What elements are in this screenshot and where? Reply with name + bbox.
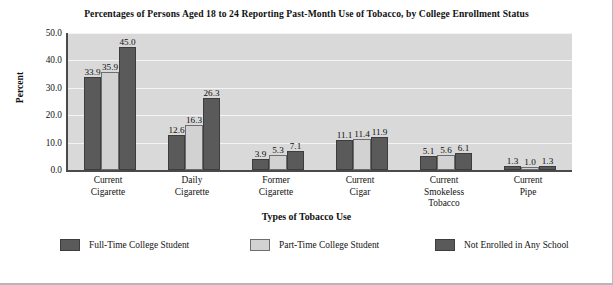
- bar[interactable]: 11.4: [353, 139, 371, 170]
- bar[interactable]: 11.9: [371, 137, 389, 170]
- bar-group: 5.15.66.1: [420, 33, 473, 170]
- bar[interactable]: 6.1: [455, 153, 473, 170]
- bar[interactable]: 33.9: [84, 77, 102, 170]
- bar-group: 1.31.01.3: [504, 33, 557, 170]
- bar-value-label: 35.9: [102, 62, 118, 72]
- y-axis-ticks: 50.040.030.020.010.00.0: [18, 33, 62, 170]
- x-axis-category-line: Current: [66, 175, 150, 187]
- x-axis-category-line: Pipe: [486, 187, 570, 199]
- x-axis-category-label: CurrentSmokelessTobacco: [402, 175, 486, 210]
- plot-area: 33.935.945.012.616.326.33.95.37.111.111.…: [66, 33, 572, 172]
- bar[interactable]: 5.6: [437, 155, 455, 170]
- bar-value-label: 1.3: [507, 156, 518, 166]
- x-axis-category-line: Cigarette: [234, 187, 318, 199]
- bar-value-label: 26.3: [203, 88, 219, 98]
- bar[interactable]: 1.3: [539, 166, 557, 170]
- bar-group: 12.616.326.3: [168, 33, 221, 170]
- x-axis-category-label: CurrentCigarette: [66, 175, 150, 198]
- bar-value-label: 5.1: [423, 146, 434, 156]
- y-axis-tick-label: 20.0: [22, 110, 62, 120]
- x-axis-category-line: Smokeless: [402, 187, 486, 199]
- y-axis-tick-label: 10.0: [22, 138, 62, 148]
- x-axis-category-line: Daily: [150, 175, 234, 187]
- bar[interactable]: 1.3: [504, 166, 522, 170]
- bar-group: 3.95.37.1: [252, 33, 305, 170]
- bar-value-label: 11.9: [372, 127, 388, 137]
- bar-value-label: 5.3: [272, 145, 283, 155]
- bar-value-label: 33.9: [84, 67, 100, 77]
- y-axis-tick-label: 50.0: [22, 28, 62, 38]
- gridline: [68, 33, 572, 34]
- bar[interactable]: 16.3: [185, 125, 203, 170]
- bar-value-label: 7.1: [290, 141, 301, 151]
- bar-value-label: 11.1: [337, 130, 353, 140]
- bar-value-label: 1.3: [542, 156, 553, 166]
- legend-swatch: [435, 239, 455, 251]
- legend-swatch: [250, 239, 270, 251]
- gridline: [68, 88, 572, 89]
- legend-label: Part-Time College Student: [279, 240, 379, 250]
- x-axis-category-line: Current: [318, 175, 402, 187]
- x-axis-category-line: Former: [234, 175, 318, 187]
- bar[interactable]: 5.1: [420, 156, 438, 170]
- bar-value-label: 45.0: [119, 37, 135, 47]
- legend-item[interactable]: Not Enrolled in Any School: [435, 238, 569, 252]
- bar[interactable]: 1.0: [521, 167, 539, 170]
- chart-figure: Percentages of Persons Aged 18 to 24 Rep…: [0, 0, 613, 285]
- x-axis-category-label: DailyCigarette: [150, 175, 234, 198]
- bar-value-label: 1.0: [524, 157, 535, 167]
- x-axis-category-label: FormerCigarette: [234, 175, 318, 198]
- bar-value-label: 6.1: [458, 143, 469, 153]
- bar[interactable]: 12.6: [168, 135, 186, 170]
- legend-swatch: [60, 239, 80, 251]
- chart-legend: Full-Time College StudentPart-Time Colle…: [60, 238, 560, 254]
- gridline: [68, 143, 572, 144]
- bar-value-label: 3.9: [255, 149, 266, 159]
- x-axis-category-label: CurrentCigar: [318, 175, 402, 198]
- legend-item[interactable]: Part-Time College Student: [250, 238, 379, 252]
- x-axis-category-line: Cigarette: [66, 187, 150, 199]
- bar-group: 33.935.945.0: [84, 33, 137, 170]
- chart-title: Percentages of Persons Aged 18 to 24 Rep…: [0, 8, 613, 19]
- x-axis-category-line: Cigarette: [150, 187, 234, 199]
- x-axis-category-line: Cigar: [318, 187, 402, 199]
- bar[interactable]: 11.1: [336, 140, 354, 170]
- bar-value-label: 5.6: [440, 145, 451, 155]
- legend-label: Not Enrolled in Any School: [464, 240, 569, 250]
- gridline: [68, 60, 572, 61]
- bar[interactable]: 35.9: [101, 72, 119, 170]
- bar-value-label: 11.4: [354, 129, 370, 139]
- x-axis-category-label: CurrentPipe: [486, 175, 570, 198]
- bar[interactable]: 7.1: [287, 151, 305, 170]
- legend-item[interactable]: Full-Time College Student: [60, 238, 189, 252]
- y-axis-tick-label: 0.0: [22, 165, 62, 175]
- x-axis-category-line: Current: [402, 175, 486, 187]
- legend-label: Full-Time College Student: [89, 240, 189, 250]
- bar[interactable]: 26.3: [203, 98, 221, 170]
- bar-value-label: 16.3: [186, 115, 202, 125]
- x-axis-category-line: Current: [486, 175, 570, 187]
- y-axis-tick-label: 30.0: [22, 83, 62, 93]
- gridline: [68, 115, 572, 116]
- bar-group: 11.111.411.9: [336, 33, 389, 170]
- bar[interactable]: 45.0: [119, 47, 137, 170]
- y-axis-tick-label: 40.0: [22, 55, 62, 65]
- x-axis-category-line: Tobacco: [402, 198, 486, 210]
- bar[interactable]: 5.3: [269, 155, 287, 170]
- bar[interactable]: 3.9: [252, 159, 270, 170]
- x-axis-title: Types of Tobacco Use: [0, 211, 613, 222]
- bar-value-label: 12.6: [168, 125, 184, 135]
